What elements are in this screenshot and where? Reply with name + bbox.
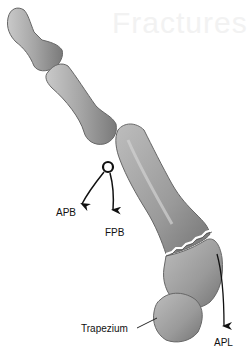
muscle-origin-marker: [103, 162, 113, 172]
label-trapezium: Trapezium: [81, 323, 128, 334]
first-metacarpal: [116, 124, 210, 254]
label-apl: APL: [214, 337, 233, 348]
label-apb: APB: [56, 207, 76, 218]
apb-arrow: [82, 172, 104, 204]
label-fpb: FPB: [105, 227, 124, 238]
trapezium-bone: [154, 293, 203, 342]
proximal-phalanx: [46, 64, 116, 144]
distal-phalanx: [7, 8, 62, 71]
fpb-arrow: [110, 173, 113, 210]
thumb-fracture-diagram: [0, 0, 248, 353]
